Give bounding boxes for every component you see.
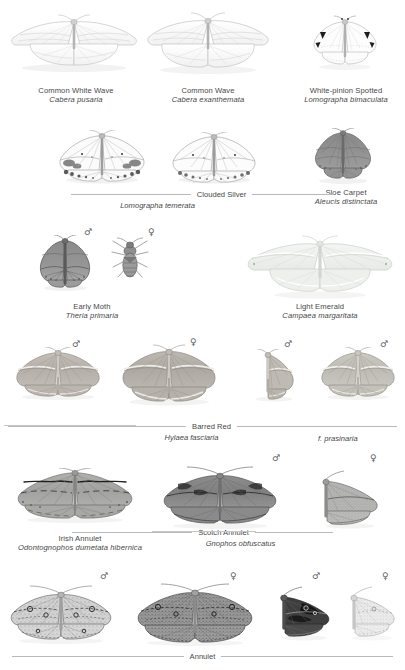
sex-symbol-early-moth-female: ♀ <box>148 228 155 237</box>
caption-light-emerald: Light Emerald Campaea margaritata <box>256 302 384 321</box>
rule-left <box>12 656 184 657</box>
caption-common-name: Early Moth <box>46 302 138 311</box>
sex-symbol-barred-red-male: ♂ <box>72 340 80 349</box>
specimen-clouded-silver-right <box>168 132 260 186</box>
specimen-common-wave <box>144 10 272 76</box>
sex-symbol-barred-red-male-2: ♂ <box>284 340 292 349</box>
caption-scientific-name: Theria primaria <box>46 311 138 320</box>
caption-common-name: Barred Red <box>192 422 231 431</box>
caption-common-name: Common Wave <box>140 86 276 95</box>
sex-symbol-annulet-male-2: ♂ <box>312 572 320 581</box>
caption-common-name: Clouded Silver <box>197 190 246 199</box>
sex-symbol-annulet-female-2: ♀ <box>382 572 389 581</box>
caption-early-moth: Early Moth Theria primaria <box>46 302 138 321</box>
caption-common-name: Light Emerald <box>256 302 384 311</box>
specimen-clouded-silver-left <box>56 130 148 186</box>
specimen-barred-red-male-2 <box>248 349 296 405</box>
specimen-annulet-female <box>134 583 256 649</box>
specimen-irish-annulet <box>14 468 136 526</box>
caption-scientific-name: Lomographa bimaculata <box>288 95 404 104</box>
caption-form-name: f. prasinaria <box>318 434 358 443</box>
specimen-barred-red-male <box>12 347 104 403</box>
specimen-annulet-male-dark <box>272 586 334 644</box>
sex-symbol-annulet-male-1: ♂ <box>100 572 108 581</box>
specimen-early-moth-female <box>110 237 150 285</box>
sex-symbol-barred-red-female: ♀ <box>190 338 197 347</box>
specimen-common-white-wave <box>8 12 140 74</box>
specimen-white-pinion-spotted <box>308 14 382 72</box>
sex-symbol-annulet-female-1: ♀ <box>230 572 237 581</box>
rule-right <box>221 656 393 657</box>
moth-plate: ♂ ♀ ♂ ♀ ♂ ♂ ♂ ♀ ♂ ♀ ♂ ♀ Common White Wav… <box>0 0 405 670</box>
separator-barred-red-left <box>4 425 136 426</box>
specimen-f-prasinaria-male <box>318 347 398 403</box>
rule-left <box>71 194 191 195</box>
specimen-light-emerald <box>244 233 396 301</box>
caption-clouded-silver: Clouded Silver Lomographa temerata <box>0 190 405 210</box>
caption-scientific-name: Cabera pusaria <box>6 95 146 104</box>
caption-common-name: Common White Wave <box>6 86 146 95</box>
separator-scotch-left <box>152 531 256 532</box>
specimen-barred-red-female <box>118 344 220 408</box>
rule-right <box>252 194 334 195</box>
rule-right <box>237 426 397 427</box>
specimen-scotch-annulet-male <box>160 466 280 532</box>
caption-scientific-name: Gnophos obfuscatus <box>76 539 405 548</box>
specimen-sloe-carpet <box>310 128 376 186</box>
caption-common-wave: Common Wave Cabera exanthemata <box>140 86 276 105</box>
caption-white-pinion-spotted: White-pinion Spotted Lomographa bimacula… <box>288 86 404 105</box>
sex-symbol-scotch-female: ♀ <box>370 454 377 463</box>
specimen-annulet-male <box>8 585 114 647</box>
caption-scientific-name: Lomographa temerata <box>0 201 405 210</box>
sex-symbol-scotch-male: ♂ <box>272 454 280 463</box>
sex-symbol-prasinaria-male: ♂ <box>380 340 388 349</box>
specimen-scotch-annulet-female <box>312 470 384 532</box>
caption-common-white-wave: Common White Wave Cabera pusaria <box>6 86 146 105</box>
caption-common-name: White-pinion Spotted <box>288 86 404 95</box>
rule-left <box>72 532 192 533</box>
caption-annulet: Annulet <box>0 652 405 661</box>
specimen-early-moth-male <box>36 235 94 293</box>
caption-scientific-name: Campaea margaritata <box>256 311 384 320</box>
rule-right <box>255 532 333 533</box>
caption-scientific-name: Cabera exanthemata <box>140 95 276 104</box>
caption-common-name: Scotch Annulet <box>198 528 249 537</box>
caption-common-name: Annulet <box>190 652 216 661</box>
specimen-annulet-female-pale <box>344 586 398 644</box>
sex-symbol-early-moth-male: ♂ <box>84 228 92 237</box>
rule-left <box>8 426 186 427</box>
